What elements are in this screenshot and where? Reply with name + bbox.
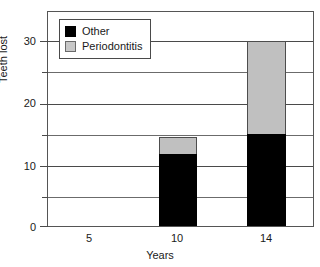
y-tick-25 <box>42 72 48 73</box>
y-tick-label-30: 30 <box>6 36 36 47</box>
bar-segment-other-14[interactable] <box>247 134 286 226</box>
y-tick-label-0: 0 <box>6 222 36 233</box>
y-tick-5 <box>42 197 48 198</box>
y-tick-30 <box>40 41 48 42</box>
plot-area: Other Periodontitis <box>47 11 314 227</box>
bar-segment-other-10[interactable] <box>159 154 197 226</box>
x-axis-title: Years <box>0 250 320 261</box>
bar-segment-periodontitis-10[interactable] <box>159 137 197 155</box>
y-tick-label-10: 10 <box>6 161 36 172</box>
legend-label-other: Other <box>82 26 110 37</box>
bar-10-years[interactable] <box>159 137 197 226</box>
chart-figure: Teeth lost 30 20 10 0 5 10 14 Years <box>0 0 320 267</box>
legend-item-other[interactable]: Other <box>65 24 143 39</box>
chart-legend[interactable]: Other Periodontitis <box>59 19 151 59</box>
legend-item-periodontitis[interactable]: Periodontitis <box>65 39 143 54</box>
x-tick-label-14: 14 <box>236 233 296 244</box>
y-tick-20 <box>40 104 48 105</box>
legend-swatch-periodontitis-icon <box>65 41 76 52</box>
y-tick-10 <box>40 166 48 167</box>
legend-swatch-other-icon <box>65 26 76 37</box>
x-tick-label-10: 10 <box>147 233 207 244</box>
bar-segment-periodontitis-14[interactable] <box>247 41 286 135</box>
y-tick-0 <box>40 226 48 227</box>
y-tick-label-20: 20 <box>6 98 36 109</box>
x-tick-label-5: 5 <box>59 233 119 244</box>
y-tick-15 <box>42 135 48 136</box>
bar-14-years[interactable] <box>247 41 286 226</box>
legend-label-periodontitis: Periodontitis <box>82 41 143 52</box>
